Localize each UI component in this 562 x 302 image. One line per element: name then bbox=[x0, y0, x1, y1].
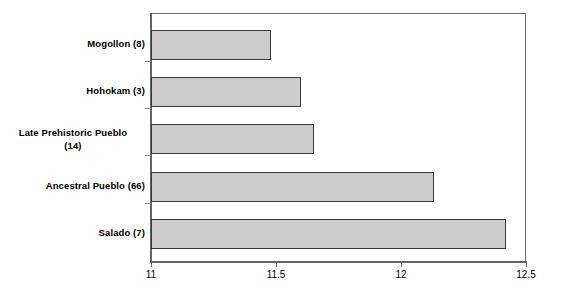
x-axis-tick-label-12: 12 bbox=[395, 269, 406, 280]
y-axis-label-late-prehistoric-pueblo-line1: Late Prehistoric Pueblo bbox=[0, 127, 146, 139]
x-tick-12 bbox=[401, 262, 402, 267]
x-axis-line bbox=[150, 261, 527, 263]
x-axis-tick-label-12-5: 12.5 bbox=[516, 269, 535, 280]
y-axis-label-late-prehistoric-pueblo-line2: (14) bbox=[0, 140, 146, 152]
x-tick-11 bbox=[151, 262, 152, 267]
y-axis-label-ancestral-pueblo: Ancestral Pueblo (66) bbox=[0, 180, 145, 192]
y-axis-label-salado: Salado (7) bbox=[0, 227, 145, 239]
x-axis-tick-label-11: 11 bbox=[146, 269, 156, 280]
x-tick-12-5 bbox=[526, 262, 527, 267]
y-axis-label-hohokam: Hohokam (3) bbox=[0, 85, 145, 97]
bar-late-prehistoric-pueblo bbox=[151, 124, 314, 154]
bar-salado bbox=[151, 219, 506, 249]
bar-hohokam bbox=[151, 77, 301, 107]
x-axis-tick-label-11-5: 11.5 bbox=[267, 269, 286, 280]
y-tick-1 bbox=[145, 61, 151, 62]
y-tick-4 bbox=[145, 203, 151, 204]
x-tick-11-5 bbox=[276, 262, 277, 267]
bar-ancestral-pueblo bbox=[151, 172, 434, 202]
y-axis-label-mogollon: Mogollon (8) bbox=[0, 38, 145, 50]
y-tick-3 bbox=[145, 155, 151, 156]
bar-chart: Mogollon (8) Hohokam (3) Late Prehistori… bbox=[0, 0, 562, 302]
bar-mogollon bbox=[151, 30, 271, 60]
y-tick-2 bbox=[145, 108, 151, 109]
